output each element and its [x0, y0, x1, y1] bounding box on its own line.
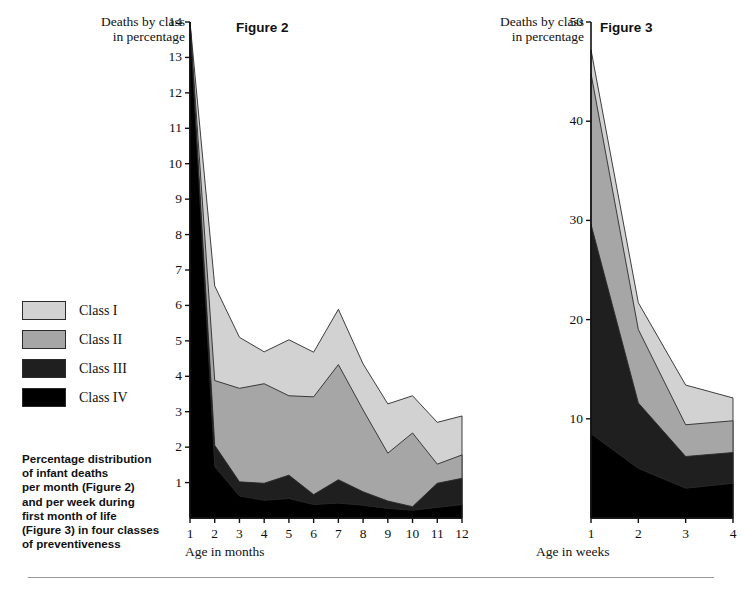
area-class-ii	[190, 22, 462, 518]
y-tick-label: 10	[551, 411, 583, 427]
legend-label: Class I	[79, 303, 118, 319]
legend-swatch-class-i	[22, 301, 66, 320]
legend-swatch-class-iii	[22, 359, 66, 378]
y-tick-label: 3	[150, 404, 182, 420]
x-tick-label: 3	[682, 526, 689, 542]
legend-item: Class I	[22, 296, 128, 325]
x-tick-label: 1	[588, 526, 595, 542]
y-tick-label: 30	[551, 212, 583, 228]
figure3-x-axis-title: Age in weeks	[536, 544, 609, 560]
x-tick-label: 4	[261, 526, 268, 542]
x-tick-label: 1	[187, 526, 194, 542]
legend: Class IClass IIClass IIIClass IV	[22, 296, 128, 412]
y-tick-label: 20	[551, 312, 583, 328]
x-tick-label: 9	[384, 526, 391, 542]
legend-swatch-class-ii	[22, 330, 66, 349]
x-tick-label: 2	[635, 526, 642, 542]
y-tick-label: 10	[150, 156, 182, 172]
figure3-plot-area	[545, 10, 741, 540]
y-tick-label: 4	[150, 368, 182, 384]
figure-page: Deaths by class in percentage Figure 2 A…	[0, 0, 741, 594]
x-tick-label: 2	[211, 526, 218, 542]
y-tick-label: 11	[150, 120, 182, 136]
x-tick-label: 12	[455, 526, 469, 542]
y-tick-label: 1	[150, 475, 182, 491]
y-tick-label: 5	[150, 333, 182, 349]
x-tick-label: 6	[310, 526, 317, 542]
x-tick-label: 10	[406, 526, 420, 542]
y-tick-label: 2	[150, 439, 182, 455]
legend-label: Class III	[79, 361, 127, 377]
x-tick-label: 3	[236, 526, 243, 542]
legend-item: Class II	[22, 325, 128, 354]
x-tick-label: 5	[286, 526, 293, 542]
y-tick-label: 50	[551, 14, 583, 30]
y-tick-label: 12	[150, 85, 182, 101]
footer-divider	[28, 577, 714, 578]
legend-label: Class IV	[79, 390, 128, 406]
y-tick-label: 7	[150, 262, 182, 278]
figure2-plot-area	[150, 10, 470, 540]
legend-label: Class II	[79, 332, 122, 348]
y-tick-label: 6	[150, 297, 182, 313]
y-tick-label: 40	[551, 113, 583, 129]
legend-item: Class III	[22, 354, 128, 383]
figure3-chart	[545, 10, 741, 540]
y-tick-label: 8	[150, 227, 182, 243]
figure2-chart	[150, 10, 470, 540]
y-tick-label: 14	[150, 14, 182, 30]
x-tick-label: 4	[730, 526, 737, 542]
legend-item: Class IV	[22, 383, 128, 412]
y-tick-label: 9	[150, 191, 182, 207]
y-tick-label: 13	[150, 49, 182, 65]
x-tick-label: 8	[360, 526, 367, 542]
x-tick-label: 7	[335, 526, 342, 542]
legend-swatch-class-iv	[22, 388, 66, 407]
x-tick-label: 11	[431, 526, 444, 542]
figure-caption: Percentage distribution of infant deaths…	[22, 452, 197, 551]
